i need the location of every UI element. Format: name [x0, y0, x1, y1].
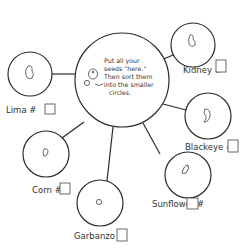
garbanzo-count-box[interactable] [117, 229, 127, 241]
lima-label: Lima # [6, 105, 36, 115]
blackeye-circle[interactable] [185, 93, 231, 139]
connector-garbanzo [107, 127, 113, 181]
category-kidney: Kidney # [171, 23, 226, 75]
instruction-line-4: into the smaller [104, 81, 154, 88]
corn-circle[interactable] [23, 131, 69, 177]
center-seed-circle[interactable] [75, 33, 169, 127]
blackeye-label: Blackeye # [185, 142, 233, 152]
category-garbanzo: Garbanzo # [74, 180, 127, 241]
instruction-line-1: Put all your [104, 57, 140, 65]
kidney-circle[interactable] [171, 23, 215, 67]
sunflower-circle[interactable] [165, 152, 211, 198]
instruction-line-5: circles. [109, 89, 131, 96]
instruction-line-2: seeds "here." [104, 65, 146, 72]
blackeye-count-box[interactable] [228, 140, 238, 152]
lima-circle[interactable] [8, 52, 52, 96]
category-corn: Corn # [23, 131, 70, 195]
corn-label: Corn # [32, 185, 62, 195]
instruction-line-3: Then sort them [103, 73, 152, 80]
sunflower-count-box[interactable] [187, 198, 198, 209]
kidney-count-box[interactable] [216, 60, 226, 72]
category-lima: Lima # [6, 52, 55, 115]
category-sunflower: Sunflower # [152, 152, 211, 209]
garbanzo-circle[interactable] [77, 180, 123, 226]
corn-count-box[interactable] [60, 183, 70, 194]
connector-blackeye [163, 104, 186, 110]
connector-sunflower [143, 123, 160, 154]
category-blackeye: Blackeye # [185, 93, 238, 152]
lima-count-box[interactable] [45, 104, 55, 114]
seed-sorting-diagram: Put all your seeds "here." Then sort the… [0, 0, 249, 250]
connector-corn [62, 122, 84, 138]
